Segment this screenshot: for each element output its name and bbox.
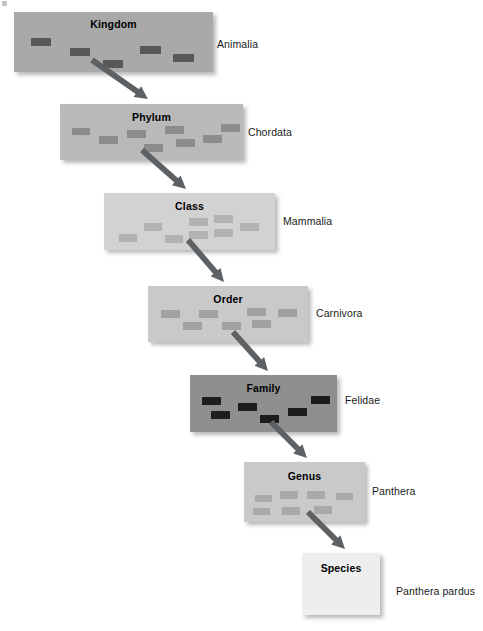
organism-block [238, 403, 257, 411]
rank-box-species[interactable]: Species [302, 553, 380, 615]
taxon-name-species: Panthera pardus [396, 585, 475, 597]
organism-block [211, 411, 230, 419]
taxon-name-family: Felidae [345, 394, 380, 406]
organism-block [252, 320, 271, 328]
organism-block [140, 46, 161, 54]
organism-block [199, 310, 218, 318]
organism-block [103, 60, 123, 68]
organism-block [183, 322, 202, 330]
organism-block [311, 396, 330, 404]
organism-block [127, 130, 146, 138]
organism-block [165, 235, 183, 243]
rank-label-species: Species [302, 562, 380, 574]
organism-block [255, 495, 272, 502]
taxon-name-class: Mammalia [283, 215, 332, 227]
taxon-name-order: Carnivora [316, 307, 362, 319]
organism-block [253, 508, 270, 515]
organism-block [222, 322, 241, 330]
rank-box-genus[interactable]: Genus [244, 462, 365, 522]
organism-block [202, 397, 221, 405]
organism-block [282, 507, 300, 515]
scan-artifact-speck [2, 1, 7, 6]
taxonomy-diagram: KingdomAnimaliaPhylumChordataClassMammal… [0, 0, 483, 631]
organism-block [260, 415, 279, 423]
organism-block [189, 218, 208, 226]
organism-block [99, 136, 118, 144]
organism-block [336, 493, 353, 500]
rank-box-kingdom[interactable]: Kingdom [14, 12, 213, 72]
organism-block [214, 215, 233, 223]
rank-box-family[interactable]: Family [190, 375, 337, 432]
rank-box-order[interactable]: Order [148, 286, 308, 342]
organism-block [278, 309, 297, 317]
organism-block [70, 48, 90, 56]
organism-block [173, 54, 194, 62]
taxon-name-phylum: Chordata [248, 126, 292, 138]
organism-block [214, 229, 233, 237]
rank-label-family: Family [190, 382, 337, 394]
organism-block [119, 234, 137, 242]
organism-block [314, 506, 332, 514]
rank-label-order: Order [148, 293, 308, 305]
organism-block [247, 308, 266, 316]
organism-block [189, 231, 208, 239]
taxon-name-kingdom: Animalia [217, 38, 258, 50]
organism-block [144, 223, 162, 231]
organism-block [307, 491, 325, 499]
organism-block [288, 408, 307, 416]
rank-label-phylum: Phylum [60, 111, 243, 123]
rank-box-phylum[interactable]: Phylum [60, 104, 243, 160]
rank-box-class[interactable]: Class [104, 193, 275, 250]
organism-block [240, 223, 259, 231]
organism-block [176, 139, 195, 147]
organism-block [72, 128, 90, 135]
organism-block [203, 135, 222, 143]
organism-block [144, 144, 163, 152]
rank-label-genus: Genus [244, 470, 365, 482]
organism-block [31, 38, 51, 46]
rank-label-kingdom: Kingdom [14, 18, 213, 30]
organism-block [165, 126, 184, 134]
organism-block [280, 491, 298, 499]
rank-label-class: Class [104, 200, 275, 212]
organism-block [221, 124, 240, 132]
taxon-name-genus: Panthera [372, 485, 415, 497]
organism-block [161, 310, 180, 318]
